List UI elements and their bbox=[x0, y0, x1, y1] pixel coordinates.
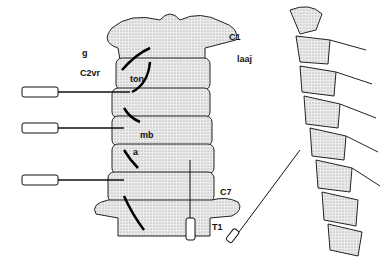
lateral-spine-view bbox=[290, 7, 380, 256]
label-g: g bbox=[82, 49, 88, 58]
ap-spine-view bbox=[95, 14, 241, 236]
label-t1: T1 bbox=[212, 223, 223, 232]
spine-diagram bbox=[0, 0, 384, 274]
label-laaj: laaj bbox=[237, 55, 252, 64]
label-a: a bbox=[133, 148, 138, 157]
label-ton: ton bbox=[130, 75, 144, 84]
label-mb: mb bbox=[140, 131, 154, 140]
label-c7: C7 bbox=[220, 188, 232, 197]
electrode-2 bbox=[22, 123, 124, 133]
electrode-lateral bbox=[226, 150, 300, 243]
label-c2vr: C2vr bbox=[80, 69, 100, 78]
label-c1: C1 bbox=[229, 33, 241, 42]
